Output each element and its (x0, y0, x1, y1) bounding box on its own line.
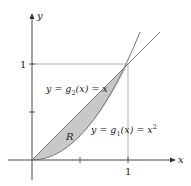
x-axis-label: x (178, 154, 184, 165)
region-label: R (65, 131, 74, 142)
y-axis-label: y (36, 10, 43, 21)
x-axis-arrow-icon (170, 158, 176, 163)
region-diagram: y x 1 1 y = g2(x) = x y = g1(x) = x2 R (0, 0, 191, 186)
curve-g1-parabola (32, 32, 140, 160)
curve-g2-line (32, 32, 160, 160)
y-axis-arrow-icon (30, 13, 35, 19)
y-tick-label: 1 (20, 59, 26, 70)
x-tick-label: 1 (125, 166, 131, 177)
curve-g1-label: y = g1(x) = x2 (90, 123, 157, 138)
